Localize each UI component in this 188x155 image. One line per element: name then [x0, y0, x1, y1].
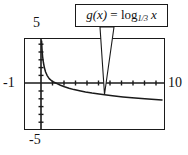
log-argument: x [151, 7, 157, 22]
formula-text: g(x) = log1/3 x [86, 7, 157, 23]
equals-sign: = [107, 7, 121, 22]
formula-callout-box: g(x) = log1/3 x [75, 4, 168, 27]
callout-pointer [100, 27, 114, 95]
function-name-label: g(x) [86, 7, 107, 22]
axes-group [25, 39, 164, 129]
log-base-subscript: 1/3 [138, 14, 148, 24]
log-function-graph-figure: 5 -1 10 -5 [0, 0, 188, 155]
log-operator: log [121, 7, 138, 22]
